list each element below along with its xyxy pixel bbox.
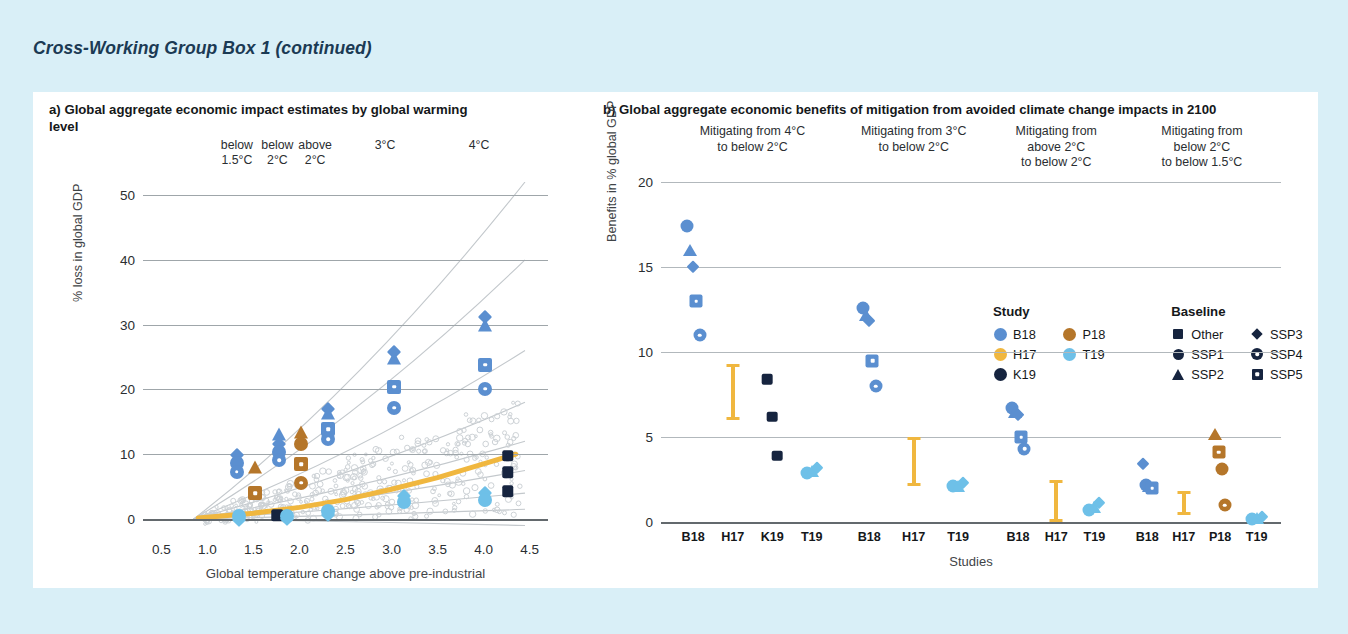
panel-b-ytick: 10	[638, 345, 653, 360]
panel-a-gridline	[143, 519, 548, 521]
panel-a-xtick: 4.0	[474, 542, 493, 557]
panel-b-xtick-k19: K19	[761, 530, 784, 544]
legend-item-baseline[interactable]: SSP3	[1250, 324, 1303, 344]
panel-a-xtick: 4.5	[520, 542, 539, 557]
panel-b-datapoint-k19	[772, 450, 783, 461]
panel-a-xtick: 1.0	[198, 542, 217, 557]
panel-b-xtick-t19: T19	[801, 530, 823, 544]
panel-a-xtick: 2.0	[290, 542, 309, 557]
panel-b-gridline	[661, 182, 1281, 183]
legend-swatch-h17-icon	[993, 348, 1007, 361]
panel-a-datapoint-b18	[272, 453, 286, 467]
legend-swatch-ssp4-icon	[1250, 348, 1264, 360]
panel-a-group-header: below2°C	[261, 138, 293, 168]
legend-study-items: B18H17K19P18T19	[993, 324, 1105, 384]
panel-a-group-header: 3°C	[375, 138, 396, 153]
panel-b-gridline	[661, 522, 1281, 524]
legend-item-baseline[interactable]: Other	[1171, 324, 1224, 344]
panel-b-xtick-h17: H17	[721, 530, 744, 544]
panel-b-legend: Study B18H17K19P18T19 Baseline OtherSSP1…	[993, 304, 1293, 384]
panel-b-ytick: 5	[645, 430, 653, 445]
panel-a-ytick: 10	[120, 447, 135, 462]
panel-b-gridline	[661, 352, 1281, 353]
panel-b-ylabel: Benefits in % global GDP	[605, 101, 619, 242]
panel-a-datapoint-b18	[387, 352, 401, 365]
panel-b-datapoint-b18	[690, 295, 703, 308]
panel-b-group-header: Mitigating frombelow 2°Cto below 1.5°C	[1161, 124, 1242, 171]
panel-b-range-cap	[1050, 519, 1063, 522]
panel-b-datapoint-p18	[1215, 463, 1228, 476]
panel-b-title: b) Global aggregate economic benefits of…	[603, 101, 1318, 118]
panel-a-ytick: 0	[127, 512, 135, 527]
panel-b-range-cap	[726, 417, 739, 420]
panel-a-ytick: 40	[120, 252, 135, 267]
panel-b-datapoint-p18	[1208, 428, 1222, 440]
panel-b-group-header: Mitigating from 4°Cto below 2°C	[700, 124, 806, 155]
legend-swatch-k19-icon	[993, 368, 1007, 381]
legend-study-column: P18T19	[1062, 324, 1105, 384]
legend-study-column: B18H17K19	[993, 324, 1036, 384]
panel-b-gridline	[661, 437, 1281, 438]
panel-a-datapoint-b18	[321, 432, 335, 446]
panel-b-datapoint-b18	[1146, 482, 1159, 495]
legend-item-baseline[interactable]: SSP4	[1250, 344, 1303, 364]
legend-item-baseline[interactable]: SSP2	[1171, 364, 1224, 384]
legend-item-study[interactable]: K19	[993, 364, 1036, 384]
legend-label: T19	[1082, 347, 1104, 362]
panel-b-range-bar-h17	[1054, 480, 1058, 523]
legend-baseline-items: OtherSSP1SSP2SSP3SSP4SSP5	[1171, 324, 1302, 384]
panel-a-datapoint-b18	[321, 407, 335, 420]
panel-b-datapoint-b18	[869, 380, 882, 393]
panel-b-range-cap	[1177, 512, 1190, 515]
panel-a-datapoint-b18	[478, 358, 492, 372]
panel-a-datapoint-p18	[248, 461, 262, 474]
panel-a-h17-curve	[198, 454, 516, 518]
panel-a-title: a) Global aggregate economic impact esti…	[49, 101, 469, 135]
legend-label: SSP1	[1191, 347, 1224, 362]
legend-item-baseline[interactable]: SSP1	[1171, 344, 1224, 364]
legend-swatch-t19-icon	[1062, 348, 1076, 361]
legend-item-study[interactable]: T19	[1062, 344, 1105, 364]
panel-b-datapoint-p18	[1218, 499, 1231, 512]
panel-b-datapoint-k19	[762, 374, 773, 385]
panel-b-xlabel: Studies	[949, 554, 992, 569]
legend-baseline-column: SSP3SSP4SSP5	[1250, 324, 1303, 384]
legend-label: SSP5	[1270, 367, 1303, 382]
legend-item-study[interactable]: B18	[993, 324, 1036, 344]
legend-item-baseline[interactable]: SSP5	[1250, 364, 1303, 384]
panel-b-datapoint-b18	[683, 244, 697, 256]
panel-a-datapoint-p18	[294, 457, 308, 471]
legend-swatch-ssp2-icon	[1171, 369, 1185, 380]
panel-b: b) Global aggregate economic benefits of…	[593, 92, 1318, 588]
legend-item-study[interactable]: P18	[1062, 324, 1105, 344]
panel-a-xlabel: Global temperature change above pre-indu…	[206, 566, 485, 581]
figure-card: a) Global aggregate economic impact esti…	[33, 92, 1318, 588]
panel-b-datapoint-b18	[687, 260, 700, 273]
panel-b-plot: Benefits in % global GDP Studies Study B…	[661, 182, 1281, 522]
panel-b-ytick: 15	[638, 260, 653, 275]
legend-item-study[interactable]: H17	[993, 344, 1036, 364]
legend-label: B18	[1013, 327, 1036, 342]
legend-swatch-b18-icon	[993, 328, 1007, 341]
panel-b-datapoint-b18	[680, 220, 693, 233]
legend-swatch-ssp5-icon	[1250, 369, 1264, 380]
panel-b-xtick-h17: H17	[1045, 530, 1068, 544]
panel-b-range-bar-h17	[731, 364, 735, 420]
panel-a-datapoint-k19	[502, 450, 513, 461]
panel-b-group-header: Mitigating fromabove 2°Cto below 2°C	[1016, 124, 1097, 171]
panel-a-datapoint-k19	[502, 485, 513, 496]
panel-b-datapoint-b18	[693, 329, 706, 342]
panel-b-range-cap	[907, 483, 920, 486]
legend-study-heading: Study	[993, 304, 1105, 319]
legend-label: K19	[1013, 367, 1036, 382]
legend-label: P18	[1082, 327, 1105, 342]
panel-a: a) Global aggregate economic impact esti…	[33, 92, 593, 588]
panel-a-ytick: 50	[120, 187, 135, 202]
panel-a-group-header: below1.5°C	[221, 138, 253, 168]
page-background: Cross-Working Group Box 1 (continued) a)…	[0, 0, 1348, 634]
legend-swatch-ssp3-icon	[1250, 330, 1264, 338]
panel-a-xtick: 2.5	[336, 542, 355, 557]
panel-b-xtick-t19: T19	[1246, 530, 1268, 544]
panel-b-xtick-b18: B18	[858, 530, 881, 544]
panel-b-range-cap	[726, 364, 739, 367]
